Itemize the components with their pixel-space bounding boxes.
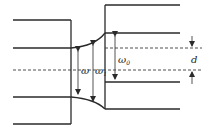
omega0-dimension: ω0 xyxy=(115,36,130,79)
d-dimension: d xyxy=(191,36,197,84)
taper-top-curve xyxy=(71,33,105,48)
omega-label: ω xyxy=(81,65,89,76)
left-block xyxy=(13,20,71,124)
omega0-label: ω0 xyxy=(118,54,130,66)
right-block xyxy=(105,5,180,109)
taper-bottom-curve xyxy=(71,97,105,109)
waveguide-diagram: ω ω1 ω0 d xyxy=(0,0,215,133)
omega-dimension: ω xyxy=(78,51,89,94)
d-label: d xyxy=(191,54,197,65)
